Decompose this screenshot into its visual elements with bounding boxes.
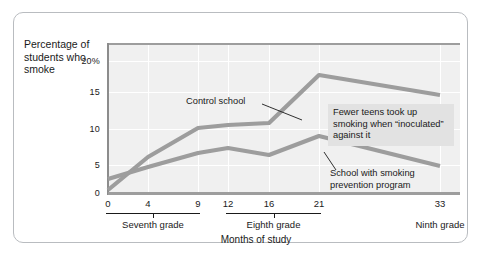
x-tick-label-16: 16 [257, 198, 281, 209]
x-tick-label-33: 33 [428, 198, 452, 209]
prevention-line-1: School with smoking [330, 168, 415, 180]
x-tick-label-0: 0 [96, 198, 120, 209]
annotation-callout-inoculated: Fewer teens took up smoking when “inocul… [328, 104, 454, 146]
group-label-eighth-grade: Eighth grade [226, 219, 321, 230]
callout-line-1: Fewer teens took up [333, 107, 449, 119]
chart-area: Percentage of students who smoke 20% 15 … [0, 0, 494, 266]
x-tick-label-9: 9 [186, 198, 210, 209]
callout-line-2: smoking when “inoculated” [333, 119, 449, 131]
group-label-seventh-grade: Seventh grade [106, 219, 200, 230]
x-tick-label-12: 12 [216, 198, 240, 209]
group-label-ninth-grade: Ninth grade [396, 219, 484, 230]
x-tick-label-4: 4 [136, 198, 160, 209]
prevention-line-2: prevention program [330, 180, 415, 192]
leader-line-control-school [262, 104, 302, 120]
x-axis-title: Months of study [176, 234, 336, 245]
callout-line-3: against it [333, 130, 449, 142]
annotation-prevention-school: School with smoking prevention program [330, 168, 415, 191]
annotation-control-school: Control school [186, 96, 245, 108]
x-tick-label-21: 21 [307, 198, 331, 209]
